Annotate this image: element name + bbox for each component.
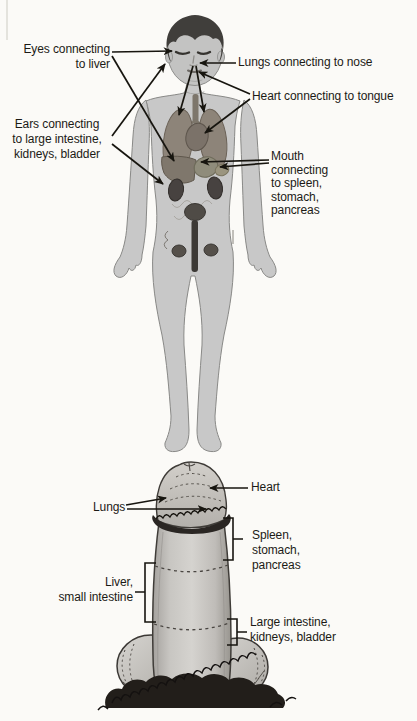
label-eyes-to-liver: Eyes connecting to liver (23, 42, 110, 72)
gonad-left (172, 245, 186, 257)
genital-organ (192, 220, 199, 272)
label-lungs-to-nose: Lungs connecting to nose (238, 55, 372, 70)
arrow-eyes-to-eye (112, 51, 172, 52)
glans (156, 462, 226, 528)
label-mouth-to-organs: Mouth connecting to spleen, stomach, pan… (271, 150, 328, 218)
label-heart-to-tongue: Heart connecting to tongue (252, 89, 394, 104)
label-zone-large-intestine-kidneys-bladder: Large intestine, kidneys, bladder (250, 615, 336, 645)
label-zone-lungs: Lungs (93, 500, 125, 515)
book-figure-page: Eyes connecting to liver Lungs connectin… (0, 0, 417, 721)
gonad-right (204, 244, 218, 256)
bladder-organ (185, 204, 206, 221)
label-zone-spleen-stomach-pancreas: Spleen, stomach, pancreas (252, 528, 301, 573)
label-ears-to-organs: Ears connecting to large intestine, kidn… (2, 117, 112, 162)
human-figure (114, 15, 276, 452)
label-zone-liver-small-intestine: Liver, small intestine (58, 575, 133, 605)
illustration-canvas (0, 0, 417, 721)
label-zone-heart: Heart (251, 480, 280, 495)
